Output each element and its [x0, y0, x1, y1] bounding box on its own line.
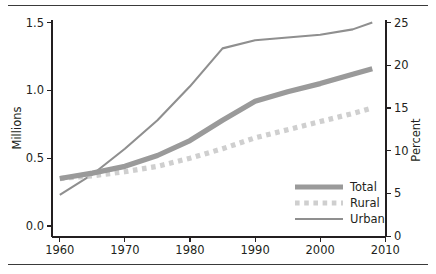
- right-tick-label: 10: [394, 144, 409, 158]
- legend-label-total: Total: [349, 180, 377, 194]
- x-tick-label: 1970: [110, 243, 139, 257]
- y-axis-title: Millions: [10, 106, 24, 149]
- x-tick-label: 1960: [45, 243, 74, 257]
- right-axis-ticks: 25 20 15 10 5 0: [386, 16, 409, 244]
- y2-axis-title: Percent: [409, 118, 423, 162]
- x-axis-ticks: 1960 1970 1980 1990 2000 2010: [45, 237, 400, 257]
- left-tick-label: 1.0: [26, 83, 44, 97]
- line-chart-plot: 1.5 1.0 0.5 0.0 25 20 15 10 5 0: [0, 0, 436, 274]
- left-tick-label: 0.0: [26, 219, 44, 233]
- left-axis-ticks: 1.5 1.0 0.5 0.0: [26, 16, 52, 233]
- chart-legend: Total Rural Urban: [295, 180, 385, 226]
- right-tick-label: 20: [394, 58, 409, 72]
- right-tick-label: 0: [394, 229, 401, 243]
- right-tick-label: 25: [394, 16, 409, 30]
- chart-figure: 1.5 1.0 0.5 0.0 25 20 15 10 5 0: [0, 0, 436, 274]
- right-tick-label: 5: [394, 186, 401, 200]
- legend-label-rural: Rural: [350, 196, 380, 210]
- x-tick-label: 2010: [371, 243, 400, 257]
- x-tick-label: 1980: [175, 243, 204, 257]
- left-tick-label: 1.5: [26, 16, 44, 30]
- left-tick-label: 0.5: [26, 151, 44, 165]
- x-tick-label: 2000: [306, 243, 335, 257]
- x-tick-label: 1990: [240, 243, 269, 257]
- right-tick-label: 15: [394, 101, 409, 115]
- legend-label-urban: Urban: [350, 212, 385, 226]
